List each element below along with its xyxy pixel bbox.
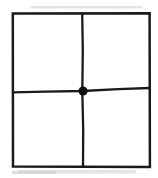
quadrant-diagram xyxy=(0,0,158,178)
scan-smudge-top-icon xyxy=(30,6,142,9)
quadrant-bottom-left xyxy=(13,92,82,166)
scan-smudge-bottom-left-icon xyxy=(12,171,56,174)
quadrant-top-right xyxy=(83,14,149,91)
quadrant-bottom-right xyxy=(83,92,149,166)
quadrant-top-left xyxy=(13,14,82,91)
figure-root: Square divided into four quadrants with … xyxy=(0,0,158,178)
